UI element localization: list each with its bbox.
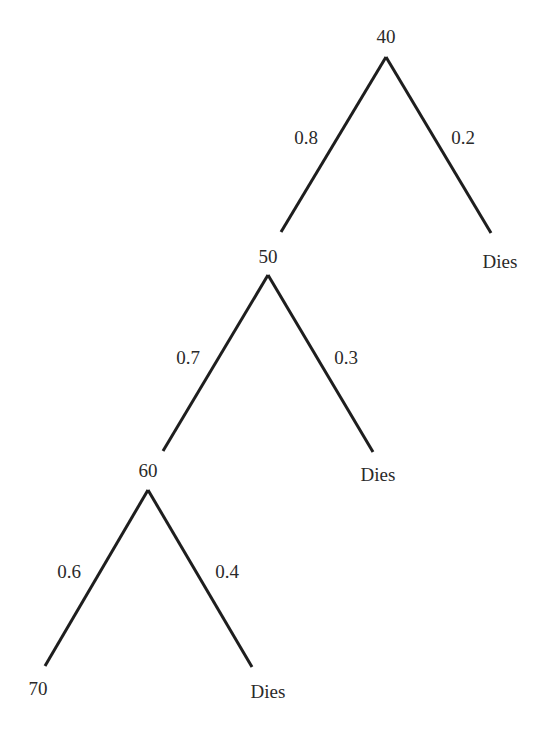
edge-label-0-4: 0.4 bbox=[215, 561, 239, 582]
probability-tree-diagram: 40 50 60 70 Dies Dies Dies 0.8 0.2 0.7 0… bbox=[0, 0, 548, 729]
node-label-dies-1: Dies bbox=[483, 251, 518, 272]
node-label-40: 40 bbox=[377, 26, 396, 47]
edge-label-0-2: 0.2 bbox=[451, 127, 475, 148]
node-label-70: 70 bbox=[29, 678, 48, 699]
edge-40-to-dies bbox=[386, 57, 491, 233]
node-label-60: 60 bbox=[139, 460, 158, 481]
edge-label-0-8: 0.8 bbox=[294, 127, 318, 148]
node-label-dies-2: Dies bbox=[361, 464, 396, 485]
node-label-50: 50 bbox=[259, 246, 278, 267]
edge-label-0-7: 0.7 bbox=[176, 347, 200, 368]
edge-label-0-6: 0.6 bbox=[57, 561, 81, 582]
edge-label-0-3: 0.3 bbox=[334, 347, 358, 368]
node-label-dies-3: Dies bbox=[251, 681, 286, 702]
